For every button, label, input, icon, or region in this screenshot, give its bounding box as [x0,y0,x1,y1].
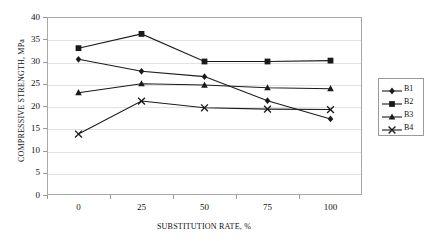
x-axis-tick-mark [173,195,174,199]
legend-item-b2[interactable]: B2 [379,95,423,108]
x-axis-tick-mark [47,195,48,199]
series-b4 [75,98,334,138]
series-plot-layer [47,17,362,195]
legend-item-b1[interactable]: B1 [379,82,423,95]
legend-symbol-triangle-icon [381,109,403,121]
legend-label: B2 [403,98,413,106]
square-marker [328,58,334,64]
square-marker [76,45,82,51]
diamond-marker [76,56,82,63]
square-marker [265,59,271,65]
y-axis-tick-label: 15 [6,124,40,133]
x-axis-tick-label: 0 [59,203,99,212]
y-axis-tick-label: 20 [6,102,40,111]
legend-symbol-square-icon [381,96,403,108]
x-axis-tick-label: 25 [122,203,162,212]
y-axis-tick-label: 35 [6,35,40,44]
y-axis-tick-label: 5 [6,168,40,177]
x-axis-tick-mark [299,195,300,199]
x-axis-title: SUBSTITUTION RATE, % [44,222,364,231]
square-marker [139,31,145,37]
legend-symbol-diamond-icon [381,83,403,95]
diamond-marker [328,116,334,123]
legend: B1B2B3B4 [378,78,424,136]
square-marker [389,101,395,107]
x-axis-tick-label: 75 [248,203,288,212]
series-b1 [76,56,334,122]
diamond-marker [389,87,395,94]
legend-item-b3[interactable]: B3 [379,108,423,121]
x-axis-tick-label: 100 [311,203,351,212]
compressive-strength-line-chart: COMPRESSIVE STRENGTH, MPa 05101520253035… [0,0,429,241]
y-axis-tick-label: 30 [6,57,40,66]
x-axis-tick-mark [110,195,111,199]
cross-marker [75,131,82,138]
legend-label: B4 [403,124,413,132]
diamond-marker [139,68,145,75]
diamond-marker [265,97,271,104]
x-axis-tick-mark [236,195,237,199]
series-b2 [76,31,334,64]
square-marker [202,59,208,65]
y-axis-tick-label: 0 [6,191,40,200]
series-line-b1 [79,59,331,119]
y-axis-tick-label: 25 [6,79,40,88]
legend-label: B3 [403,111,413,119]
series-b3 [75,80,334,95]
y-axis-tick-label: 10 [6,146,40,155]
x-axis-tick-label: 50 [185,203,225,212]
series-line-b4 [79,101,331,134]
triangle-marker [138,80,145,86]
legend-label: B1 [403,85,413,93]
y-axis-tick-label: 40 [6,13,40,22]
legend-symbol-cross-icon [381,122,403,134]
legend-item-b4[interactable]: B4 [379,121,423,134]
diamond-marker [202,73,208,80]
series-line-b2 [79,34,331,62]
